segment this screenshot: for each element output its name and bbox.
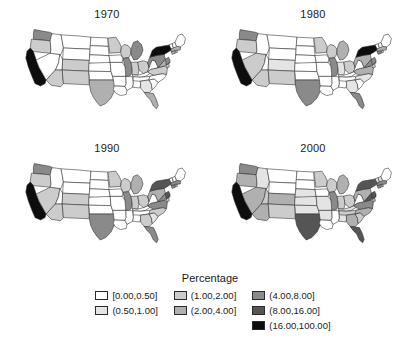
state-me bbox=[175, 34, 185, 47]
state-nd bbox=[296, 37, 314, 46]
legend: Percentage [0.00,0.50](0.50,1.00](1.00,2… bbox=[0, 272, 420, 338]
state-mi bbox=[131, 41, 143, 60]
state-wa bbox=[33, 30, 52, 41]
state-mi bbox=[131, 175, 143, 194]
state-wy bbox=[269, 48, 297, 60]
map-panel-title: 1990 bbox=[6, 142, 208, 154]
state-tx bbox=[89, 80, 115, 106]
state-fl bbox=[144, 226, 158, 242]
state-wa bbox=[239, 164, 258, 175]
state-sd bbox=[296, 46, 315, 56]
state-fl bbox=[350, 92, 364, 108]
state-in bbox=[131, 196, 139, 209]
state-fl bbox=[144, 92, 158, 108]
state-la bbox=[113, 220, 127, 230]
state-co bbox=[62, 59, 89, 71]
state-wi bbox=[121, 44, 131, 58]
state-nm bbox=[62, 70, 89, 85]
state-nj bbox=[371, 57, 376, 65]
us-choropleth-svg bbox=[212, 154, 414, 274]
legend-swatch bbox=[252, 306, 265, 315]
map-panel-title: 2000 bbox=[212, 142, 414, 154]
legend-label: [0.00,0.50] bbox=[112, 291, 157, 301]
state-sd bbox=[90, 180, 109, 190]
state-oh bbox=[344, 195, 355, 208]
state-ok bbox=[89, 205, 114, 214]
us-choropleth-svg bbox=[212, 20, 414, 140]
state-nd bbox=[296, 171, 314, 180]
state-in bbox=[337, 196, 345, 209]
state-co bbox=[268, 193, 295, 205]
state-ks bbox=[295, 196, 317, 205]
state-nj bbox=[371, 191, 376, 199]
state-fl bbox=[350, 226, 364, 242]
us-choropleth-svg bbox=[6, 154, 208, 274]
state-mn bbox=[314, 171, 328, 187]
legend-label: (0.50,1.00] bbox=[112, 306, 157, 316]
state-wy bbox=[269, 182, 297, 194]
state-ia bbox=[315, 55, 329, 63]
state-nd bbox=[90, 171, 108, 180]
state-in bbox=[337, 62, 345, 75]
state-ms bbox=[125, 210, 133, 224]
state-tx bbox=[295, 214, 321, 240]
state-ar bbox=[113, 76, 127, 86]
legend-column: [0.00,0.50](0.50,1.00] bbox=[95, 289, 157, 332]
state-mi bbox=[337, 41, 349, 60]
state-wy bbox=[63, 48, 91, 60]
state-tx bbox=[89, 214, 115, 240]
legend-column: (4.00,8.00](8.00,16.00](16.00,100.00] bbox=[252, 289, 330, 332]
legend-item: (8.00,16.00] bbox=[252, 304, 330, 317]
us-choropleth-svg bbox=[6, 20, 208, 140]
state-oh bbox=[138, 61, 149, 74]
state-ok bbox=[295, 205, 320, 214]
state-mt bbox=[61, 169, 91, 183]
state-wi bbox=[121, 178, 131, 192]
state-wy bbox=[63, 182, 91, 194]
state-ar bbox=[319, 210, 333, 220]
state-mn bbox=[108, 37, 122, 53]
state-ar bbox=[113, 210, 127, 220]
state-wi bbox=[327, 44, 337, 58]
state-me bbox=[381, 168, 391, 181]
legend-label: (8.00,16.00] bbox=[269, 306, 320, 316]
state-nj bbox=[165, 57, 170, 65]
legend-label: (16.00,100.00] bbox=[269, 321, 330, 331]
state-mt bbox=[61, 35, 91, 49]
legend-swatch bbox=[95, 306, 108, 315]
state-la bbox=[319, 86, 333, 96]
legend-item: (2.00,4.00] bbox=[174, 304, 236, 317]
legend-item: (0.50,1.00] bbox=[95, 304, 157, 317]
legend-label: (1.00,2.00] bbox=[191, 291, 236, 301]
legend-swatch bbox=[252, 321, 265, 330]
map-canvas bbox=[212, 20, 414, 140]
legend-item: (4.00,8.00] bbox=[252, 289, 330, 302]
state-la bbox=[319, 220, 333, 230]
state-co bbox=[62, 193, 89, 205]
legend-item: (16.00,100.00] bbox=[252, 319, 330, 332]
state-oh bbox=[344, 61, 355, 74]
map-canvas bbox=[212, 154, 414, 274]
legend-swatch bbox=[174, 291, 187, 300]
state-nj bbox=[165, 191, 170, 199]
state-ks bbox=[89, 62, 111, 71]
state-la bbox=[113, 86, 127, 96]
state-me bbox=[175, 168, 185, 181]
state-oh bbox=[138, 195, 149, 208]
state-mn bbox=[314, 37, 328, 53]
state-ia bbox=[109, 189, 123, 197]
state-tx bbox=[295, 80, 321, 106]
state-mn bbox=[108, 171, 122, 187]
map-panel-1980: 1980 bbox=[212, 8, 414, 140]
state-mt bbox=[267, 169, 297, 183]
state-sd bbox=[90, 46, 109, 56]
legend-column: (1.00,2.00](2.00,4.00] bbox=[174, 289, 236, 332]
state-nd bbox=[90, 37, 108, 46]
state-mt bbox=[267, 35, 297, 49]
legend-swatch bbox=[252, 291, 265, 300]
legend-columns: [0.00,0.50](0.50,1.00](1.00,2.00](2.00,4… bbox=[0, 289, 420, 332]
legend-label: (2.00,4.00] bbox=[191, 306, 236, 316]
map-panel-1990: 1990 bbox=[6, 142, 208, 274]
state-ms bbox=[331, 76, 339, 90]
legend-item: (1.00,2.00] bbox=[174, 289, 236, 302]
